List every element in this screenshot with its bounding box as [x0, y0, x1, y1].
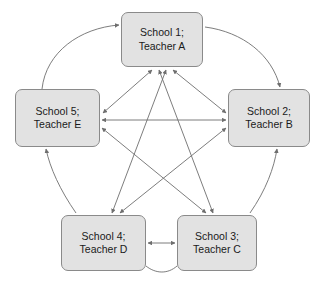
node-school-4-label-line1: School 4;	[82, 230, 126, 244]
node-school-3-label-line2: Teacher C	[193, 243, 241, 257]
edge-school4-school3-outer	[146, 266, 177, 272]
edge-school5-school3	[102, 128, 206, 213]
node-school-5-teacher-e[interactable]: School 5; Teacher E	[15, 89, 100, 147]
node-school-4-teacher-d[interactable]: School 4; Teacher D	[61, 215, 146, 271]
node-school-2-label-line2: Teacher B	[245, 118, 292, 132]
network-diagram: School 1; Teacher A School 2; Teacher B …	[0, 0, 323, 288]
edge-school5-school1	[42, 25, 119, 89]
node-school-2-teacher-b[interactable]: School 2; Teacher B	[228, 89, 310, 147]
node-school-1-teacher-a[interactable]: School 1; Teacher A	[121, 12, 203, 67]
node-school-2-label-line1: School 2;	[247, 105, 291, 119]
node-school-1-label-line1: School 1;	[140, 26, 184, 40]
node-school-5-label-line2: Teacher E	[34, 118, 81, 132]
node-school-5-label-line1: School 5;	[36, 105, 80, 119]
edge-school1-school5-inner	[103, 70, 152, 113]
node-school-3-teacher-c[interactable]: School 3; Teacher C	[177, 215, 257, 271]
edge-school1-school4	[112, 70, 166, 213]
edge-school1-school3	[159, 70, 213, 213]
node-school-1-label-line2: Teacher A	[139, 40, 186, 54]
edge-school3-school2	[250, 149, 277, 213]
node-school-3-label-line1: School 3;	[195, 230, 239, 244]
edge-school1-school2-inner	[173, 70, 226, 113]
edge-school4-school5	[46, 149, 76, 213]
node-school-4-label-line2: Teacher D	[80, 243, 128, 257]
edge-school2-school4	[120, 128, 226, 213]
edge-school1-school2	[205, 27, 280, 87]
